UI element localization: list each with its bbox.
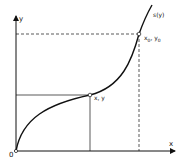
curve-label: s(y) [153, 11, 164, 19]
diagram-canvas: y x 0 s(y) x, y x0, y0 [0, 0, 183, 163]
y0-sub: 0 [158, 38, 161, 43]
curve-s-y [16, 5, 152, 151]
point-x0y0 [137, 32, 141, 36]
y-axis-label: y [19, 15, 23, 23]
x-axis-label: x [169, 140, 173, 148]
point-xy [88, 93, 92, 97]
point-xy-label: x, y [94, 94, 105, 102]
origin-label: 0 [9, 151, 13, 159]
point-origin [14, 149, 17, 152]
point-x0y0-label: x0, y0 [144, 34, 161, 43]
